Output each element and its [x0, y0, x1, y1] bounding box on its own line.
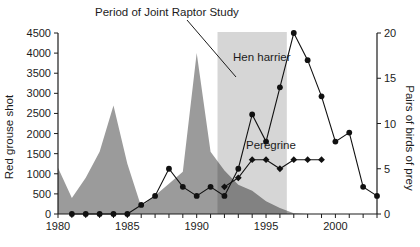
data-point-circle	[360, 184, 366, 190]
data-point-circle	[235, 166, 241, 172]
left-tick-label: 3500	[27, 67, 51, 79]
right-tick-label: 15	[384, 72, 396, 84]
data-point-circle	[69, 211, 75, 217]
data-point-circle	[124, 211, 130, 217]
x-tick-label: 1995	[254, 220, 278, 232]
left-tick-label: 3000	[27, 87, 51, 99]
data-point-circle	[346, 130, 352, 136]
data-point-circle	[291, 30, 297, 36]
data-point-circle	[305, 57, 311, 63]
right-tick-label: 10	[384, 118, 396, 130]
x-tick-label: 1985	[115, 220, 139, 232]
chart-canvas: 0500100015002000250030003500400045000510…	[0, 0, 420, 247]
left-tick-label: 1000	[27, 168, 51, 180]
data-point-circle	[374, 193, 380, 199]
data-point-circle	[222, 193, 228, 199]
data-point-diamond	[290, 156, 297, 163]
data-point-circle	[83, 211, 89, 217]
data-point-circle	[97, 211, 103, 217]
data-point-circle	[138, 202, 144, 208]
right-tick-label: 0	[384, 208, 390, 220]
x-tick-label: 2000	[323, 220, 347, 232]
right-tick-label: 20	[384, 27, 396, 39]
left-tick-label: 500	[33, 188, 51, 200]
left-axis-title: Red grouse shot	[3, 94, 15, 179]
data-point-circle	[180, 184, 186, 190]
left-tick-label: 0	[45, 208, 51, 220]
figure-title: Period of Joint Raptor Study	[95, 6, 239, 18]
left-tick-label: 1500	[27, 148, 51, 160]
hen-harrier-label: Hen harrier	[233, 51, 291, 63]
left-tick-label: 2000	[27, 128, 51, 140]
data-point-diamond	[318, 156, 325, 163]
data-point-circle	[194, 193, 200, 199]
data-point-circle	[166, 166, 172, 172]
x-tick-label: 1990	[184, 220, 208, 232]
data-point-circle	[249, 112, 255, 118]
peregrine-label: Peregrine	[246, 139, 296, 151]
left-tick-label: 4500	[27, 27, 51, 39]
data-point-circle	[208, 184, 214, 190]
data-point-diamond	[304, 156, 311, 163]
data-point-circle	[152, 193, 158, 199]
right-axis-title: Pairs of birds of prey	[404, 85, 416, 191]
x-tick-label: 1980	[46, 220, 70, 232]
data-point-circle	[277, 84, 283, 90]
data-point-circle	[332, 139, 338, 145]
left-tick-label: 2500	[27, 107, 51, 119]
left-tick-label: 4000	[27, 47, 51, 59]
right-tick-label: 5	[384, 163, 390, 175]
raptor-study-figure: 0500100015002000250030003500400045000510…	[0, 0, 420, 247]
data-point-circle	[111, 211, 117, 217]
data-point-circle	[319, 93, 325, 99]
